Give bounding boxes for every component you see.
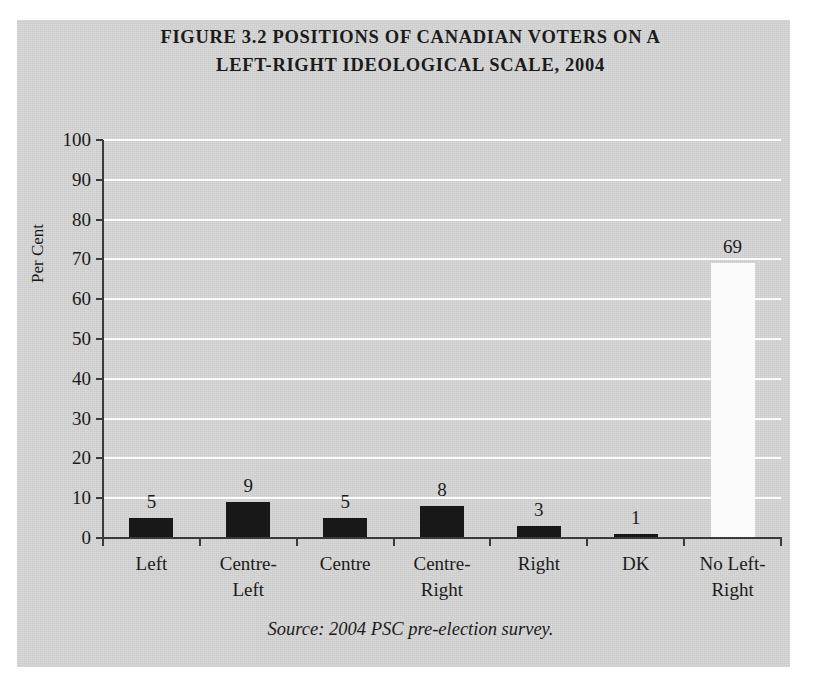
bar-centre-right <box>420 506 464 538</box>
bar-value-label: 8 <box>437 479 447 501</box>
x-axis-tick <box>296 537 298 546</box>
chart-title-line-2: LEFT-RIGHT IDEOLOGICAL SCALE, 2004 <box>0 51 821 79</box>
bar-value-label: 5 <box>340 491 350 513</box>
x-axis-category-label-line: Centre <box>297 551 394 577</box>
bar-left <box>129 518 173 538</box>
chart-title-line-1: FIGURE 3.2 POSITIONS OF CANADIAN VOTERS … <box>0 23 821 51</box>
bar-value-label: 9 <box>244 475 254 497</box>
x-axis-line <box>102 537 782 539</box>
y-axis-tick-label: 80 <box>72 209 91 231</box>
x-axis-category-label: No Left-Right <box>684 551 781 603</box>
x-axis-category-label-line: Right <box>684 577 781 603</box>
bar-centre <box>323 518 367 538</box>
bar-value-label: 5 <box>147 491 157 513</box>
x-axis-category-label-line: Right <box>490 551 587 577</box>
y-axis-tick-label: 0 <box>82 527 92 549</box>
gridline <box>103 219 781 221</box>
x-axis-category-label: Right <box>490 551 587 577</box>
x-axis-category-label: Centre-Right <box>394 551 491 603</box>
y-axis-title: Per Cent <box>28 224 48 283</box>
chart-title: FIGURE 3.2 POSITIONS OF CANADIAN VOTERS … <box>0 23 821 79</box>
x-axis-category-label-line: Left <box>103 551 200 577</box>
y-axis-tick-label: 70 <box>72 248 91 270</box>
gridline <box>103 139 781 141</box>
gridline <box>103 378 781 380</box>
figure-page: FIGURE 3.2 POSITIONS OF CANADIAN VOTERS … <box>0 0 821 688</box>
bar-centre-left <box>226 502 270 538</box>
x-axis-tick <box>199 537 201 546</box>
x-axis-tick <box>489 537 491 546</box>
x-axis-category-label-line: Left <box>200 577 297 603</box>
y-axis-tick-label: 50 <box>72 328 91 350</box>
gridline <box>103 338 781 340</box>
x-axis-tick <box>586 537 588 546</box>
y-axis-tick-label: 90 <box>72 169 91 191</box>
source-note: Source: 2004 PSC pre-election survey. <box>0 619 821 640</box>
x-axis-category-label: Centre-Left <box>200 551 297 603</box>
x-axis-category-label-line: DK <box>587 551 684 577</box>
gridline <box>103 179 781 181</box>
gridline <box>103 298 781 300</box>
bar-value-label: 3 <box>534 499 544 521</box>
plot-area: 010203040506070809010059583169 <box>103 140 781 538</box>
x-axis-tick <box>102 537 104 546</box>
y-axis-tick-label: 100 <box>63 129 92 151</box>
x-axis-category-label: DK <box>587 551 684 577</box>
x-axis-tick <box>683 537 685 546</box>
x-axis-category-label-line: Right <box>394 577 491 603</box>
y-axis-tick-label: 30 <box>72 408 91 430</box>
bar-no-left-right <box>711 263 755 538</box>
bar-value-label: 1 <box>631 507 641 529</box>
bar-value-label: 69 <box>723 236 742 258</box>
y-axis-line <box>102 140 104 539</box>
y-axis-tick-label: 20 <box>72 447 91 469</box>
x-axis-tick <box>393 537 395 546</box>
x-axis-category-label-line: No Left- <box>684 551 781 577</box>
y-axis-tick-label: 40 <box>72 368 91 390</box>
y-axis-tick-label: 10 <box>72 487 91 509</box>
x-axis-category-label: Centre <box>297 551 394 577</box>
x-axis-category-label: Left <box>103 551 200 577</box>
x-axis-category-label-line: Centre- <box>394 551 491 577</box>
gridline <box>103 418 781 420</box>
gridline <box>103 457 781 459</box>
gridline <box>103 258 781 260</box>
y-axis-tick-label: 60 <box>72 288 91 310</box>
x-axis-category-label-line: Centre- <box>200 551 297 577</box>
x-axis-tick <box>780 537 782 546</box>
